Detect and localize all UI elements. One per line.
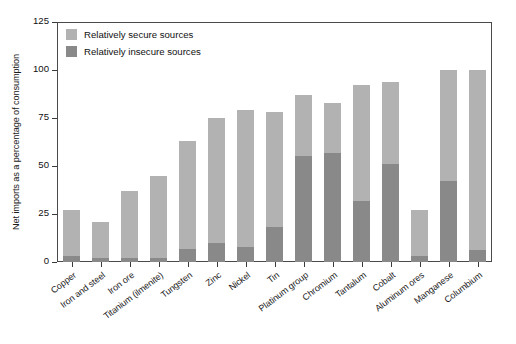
bar-segment-insecure xyxy=(237,247,254,262)
bar-segment-secure xyxy=(382,82,399,165)
bar xyxy=(353,85,370,262)
bar-segment-secure xyxy=(237,110,254,246)
y-tick-label: 50 xyxy=(38,159,49,170)
bar-segment-secure xyxy=(440,70,457,181)
x-tick-line xyxy=(304,262,305,267)
bar-segment-insecure xyxy=(440,181,457,262)
y-tick: 100 xyxy=(0,70,57,71)
bar-segment-secure xyxy=(266,112,283,227)
bar-chart: Net imports as a percentage of consumpti… xyxy=(0,0,516,344)
y-tick: 75 xyxy=(0,118,57,119)
x-tick-line xyxy=(130,262,131,267)
bar xyxy=(121,191,138,262)
bar-segment-insecure xyxy=(208,243,225,262)
y-axis-title: Net imports as a percentage of consumpti… xyxy=(8,12,24,272)
bar-segment-insecure xyxy=(179,249,196,262)
bar-segment-secure xyxy=(121,191,138,258)
y-tick-line xyxy=(52,262,57,263)
bar-segment-insecure xyxy=(382,164,399,262)
y-tick-label: 25 xyxy=(38,207,49,218)
bar xyxy=(179,141,196,262)
bar-segment-insecure xyxy=(295,156,312,262)
x-tick-line xyxy=(72,262,73,267)
x-tick-line xyxy=(159,262,160,267)
bar xyxy=(469,70,486,262)
bar-segment-secure xyxy=(353,85,370,200)
bar xyxy=(440,70,457,262)
legend-item-secure: Relatively secure sources xyxy=(66,27,201,42)
bar xyxy=(150,176,167,262)
bar-segment-secure xyxy=(469,70,486,250)
bar-segment-secure xyxy=(179,141,196,249)
legend-swatch-insecure xyxy=(66,46,77,57)
x-tick-line xyxy=(188,262,189,267)
y-tick-label: 0 xyxy=(44,255,49,266)
bar xyxy=(237,110,254,262)
bar xyxy=(382,82,399,262)
bar xyxy=(208,118,225,262)
x-tick-line xyxy=(391,262,392,267)
bar xyxy=(266,112,283,262)
legend-item-insecure: Relatively insecure sources xyxy=(66,44,201,59)
y-tick: 125 xyxy=(0,22,57,23)
bar xyxy=(63,210,80,262)
legend: Relatively secure sources Relatively ins… xyxy=(66,27,201,61)
bar-segment-secure xyxy=(150,176,167,259)
x-tick-line xyxy=(420,262,421,267)
x-tick-line xyxy=(362,262,363,267)
x-tick-line xyxy=(275,262,276,267)
y-tick: 50 xyxy=(0,166,57,167)
bar-segment-insecure xyxy=(324,153,341,262)
y-tick: 0 xyxy=(0,262,57,263)
legend-label-secure: Relatively secure sources xyxy=(84,29,193,40)
legend-label-insecure: Relatively insecure sources xyxy=(84,46,201,57)
bar-segment-insecure xyxy=(266,227,283,262)
bar xyxy=(92,222,109,262)
y-tick: 25 xyxy=(0,214,57,215)
x-tick-line xyxy=(478,262,479,267)
x-tick-line xyxy=(101,262,102,267)
y-tick-label: 100 xyxy=(33,63,49,74)
x-tick-line xyxy=(449,262,450,267)
x-tick-line xyxy=(217,262,218,267)
x-tick-line xyxy=(333,262,334,267)
x-tick-line xyxy=(246,262,247,267)
bar xyxy=(295,95,312,262)
bar-segment-secure xyxy=(295,95,312,156)
bar-segment-secure xyxy=(208,118,225,243)
bar-segment-secure xyxy=(63,210,80,256)
bar-segment-insecure xyxy=(469,250,486,262)
legend-swatch-secure xyxy=(66,29,77,40)
bar-segment-secure xyxy=(92,222,109,258)
bar-segment-secure xyxy=(324,103,341,153)
bar xyxy=(324,103,341,262)
y-tick-label: 75 xyxy=(38,111,49,122)
bar-segment-secure xyxy=(411,210,428,256)
bar xyxy=(411,210,428,262)
bar-segment-insecure xyxy=(353,201,370,262)
y-tick-label: 125 xyxy=(33,15,49,26)
